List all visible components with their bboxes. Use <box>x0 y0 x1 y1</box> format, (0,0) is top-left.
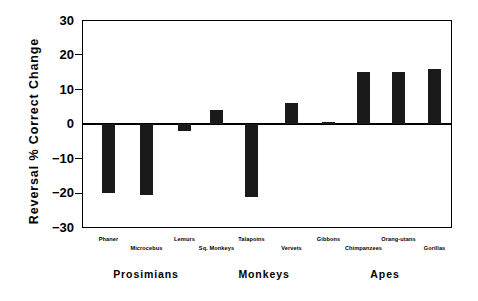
y-tick-label: 0 <box>34 117 74 130</box>
group-label-prosimians: Prosimians <box>113 268 179 280</box>
category-label-sq-monkeys: Sq. Monkeys <box>199 245 234 251</box>
bar-vervets <box>285 103 298 124</box>
bar-lemurs <box>178 124 191 131</box>
bar-microcebus <box>140 124 153 195</box>
category-label-microcebus: Microcebus <box>130 245 162 251</box>
group-label-monkeys: Monkeys <box>238 268 289 280</box>
bar-sq-monkeys <box>210 110 223 124</box>
bar-chimpanzees <box>357 72 370 124</box>
category-label-talapoins: Talapoins <box>238 236 265 242</box>
bar-gibbons <box>322 122 335 124</box>
chart-figure: Reversal % Correct Change 30 20 10 0 −10… <box>0 0 478 301</box>
y-tick-label: 30 <box>34 14 74 27</box>
category-label-vervets: Vervets <box>281 245 302 251</box>
category-label-chimpanzees: Chimpanzees <box>345 245 382 251</box>
category-label-gorillas: Gorillas <box>424 245 446 251</box>
y-tick-label: 10 <box>34 83 74 96</box>
y-tick-label: −20 <box>34 186 74 199</box>
y-tick-label: 20 <box>34 48 74 61</box>
y-tick-label: −10 <box>34 152 74 165</box>
bar-phaner <box>102 124 115 193</box>
y-tick-label: −30 <box>34 221 74 234</box>
category-label-phaner: Phaner <box>99 236 119 242</box>
bar-gorillas <box>428 69 441 124</box>
category-label-gibbons: Gibbons <box>317 236 340 242</box>
category-label-orang-utans: Orang-utans <box>381 236 415 242</box>
bar-orang-utans <box>392 72 405 124</box>
y-axis-tick-labels: 30 20 10 0 −10 −20 −30 <box>26 0 74 301</box>
bar-talapoins <box>245 124 258 197</box>
group-label-apes: Apes <box>370 268 399 280</box>
category-label-lemurs: Lemurs <box>174 236 195 242</box>
